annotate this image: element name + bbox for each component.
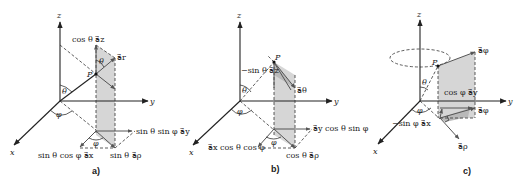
theta-label: θ xyxy=(242,86,247,95)
point-p xyxy=(94,72,97,75)
phi-base-label: φ xyxy=(271,138,277,147)
a-rho-vector xyxy=(440,118,459,139)
panel-a: z y x P θ φ θ φ cos θ a⃗z a⃗r sin θ sin … xyxy=(10,11,190,176)
proj-ground xyxy=(420,101,440,119)
cos-phi-ay-label: cos φ a⃗y xyxy=(444,88,478,97)
phi-label: φ xyxy=(56,110,62,119)
proj-y xyxy=(115,131,135,148)
x-axis xyxy=(14,101,60,145)
z-label: z xyxy=(56,11,62,20)
sin-theta-arho-label: sin θ a⃗ρ xyxy=(110,151,142,160)
cos-theta-az-label: cos θ a⃗z xyxy=(72,35,105,44)
caption-a: a) xyxy=(92,166,100,176)
x-label: x xyxy=(10,148,15,157)
caption-c: c) xyxy=(463,166,471,176)
theta-p-label: θ xyxy=(99,57,104,66)
x-label: x xyxy=(373,147,378,156)
theta-label: θ xyxy=(62,87,67,96)
caption-b: b) xyxy=(271,164,280,174)
phi-base-label: φ xyxy=(93,139,99,148)
spherical-unit-vectors-figure: z y x P θ φ θ φ cos θ a⃗z a⃗r sin θ sin … xyxy=(0,0,522,182)
phi-label: φ xyxy=(237,107,243,116)
proj-ground xyxy=(240,101,274,130)
ar-label: a⃗r xyxy=(117,53,126,62)
a-rho-label: a⃗ρ xyxy=(458,142,468,151)
y-label: y xyxy=(149,97,155,106)
p-label: P xyxy=(274,53,281,62)
neg-sin-theta-az-label: −sin θ a⃗z xyxy=(241,66,279,75)
a-phi-label: a⃗φ xyxy=(478,106,489,115)
y-label: y xyxy=(507,97,513,106)
sin-theta-sin-phi-ay-label: sin θ sin φ a⃗y xyxy=(136,127,190,136)
p-label: P xyxy=(86,70,93,79)
sin-theta-cos-phi-ax-label: sin θ cos φ a⃗x xyxy=(38,151,94,160)
x-label: x xyxy=(189,148,194,157)
panel-c: z y x P θ φ a⃗φ cos φ a⃗y a⃗φ −sin φ a⃗x… xyxy=(373,10,513,176)
a-theta-label: a⃗θ xyxy=(297,86,307,95)
a-phi-top-label: a⃗φ xyxy=(478,46,489,55)
ax-cos-theta-cos-phi-label: a⃗x cos θ cos φ xyxy=(208,143,265,152)
proj-ground xyxy=(60,101,96,130)
cos-theta-arho-label: cos θ a⃗ρ xyxy=(286,151,319,160)
theta-label: θ xyxy=(422,78,427,87)
y-label: y xyxy=(333,97,339,106)
ay-cos-theta-sin-phi-label: a⃗y cos θ sin φ xyxy=(313,124,369,133)
p-label: P xyxy=(431,58,438,67)
proj-y xyxy=(295,129,312,148)
x-axis xyxy=(193,101,240,145)
panel-b: z y x P θ φ φ −sin θ a⃗z a⃗θ a⃗y cos θ s… xyxy=(189,11,369,174)
z-label: z xyxy=(416,10,422,19)
z-label: z xyxy=(236,11,242,20)
phi-label: φ xyxy=(417,106,423,115)
neg-sin-phi-ax-label: −sin φ a⃗x xyxy=(392,119,431,128)
